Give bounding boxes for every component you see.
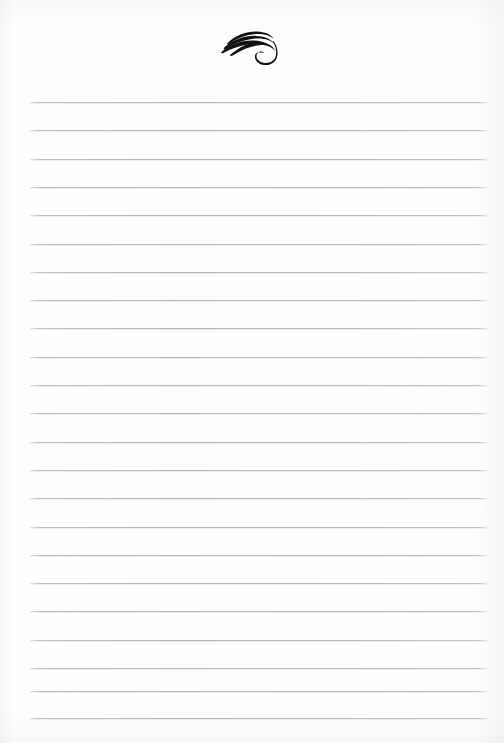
rule-line: [30, 272, 487, 273]
rule-line: [30, 668, 487, 669]
rule-line: [30, 498, 487, 499]
rule-line: [30, 187, 487, 188]
rule-line: [30, 611, 487, 612]
rule-line: [30, 691, 487, 692]
rule-line: [30, 718, 487, 719]
rule-line: [30, 102, 487, 103]
rule-line: [30, 640, 487, 641]
rule-line: [30, 555, 487, 556]
rule-line: [30, 413, 487, 414]
rule-line: [30, 357, 487, 358]
rule-line: [30, 385, 487, 386]
rule-line: [30, 328, 487, 329]
rule-line: [30, 300, 487, 301]
rule-line: [30, 527, 487, 528]
ruled-lines: [0, 0, 504, 743]
rule-line: [30, 215, 487, 216]
rule-line: [30, 470, 487, 471]
rule-line: [30, 130, 487, 131]
rule-line: [30, 244, 487, 245]
rule-line: [30, 159, 487, 160]
rule-line: [30, 583, 487, 584]
rule-line: [30, 442, 487, 443]
notepaper-page: [0, 0, 504, 743]
